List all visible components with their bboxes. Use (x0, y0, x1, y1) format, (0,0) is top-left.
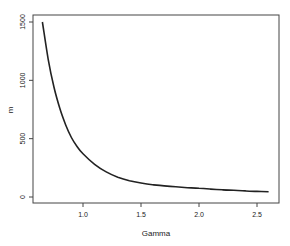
y-tick-label: 0 (19, 195, 26, 199)
x-axis: 1.01.52.02.5 (78, 203, 262, 218)
x-tick-label: 2.0 (194, 211, 204, 218)
chart: 1.01.52.02.5 050010001500 Gamma m (0, 0, 290, 246)
y-axis: 050010001500 (19, 14, 33, 199)
x-axis-label: Gamma (142, 229, 171, 238)
y-tick-label: 1000 (19, 72, 26, 88)
y-tick-label: 1500 (19, 14, 26, 30)
data-line (42, 22, 268, 192)
x-tick-label: 1.5 (136, 211, 146, 218)
plot-frame (33, 15, 279, 203)
x-tick-label: 1.0 (78, 211, 88, 218)
x-tick-label: 2.5 (252, 211, 262, 218)
y-tick-label: 500 (19, 133, 26, 145)
y-axis-label: m (6, 106, 15, 113)
